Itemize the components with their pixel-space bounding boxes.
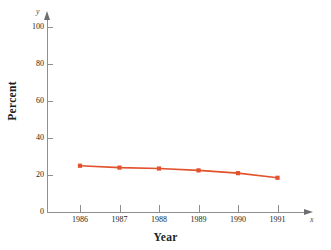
data-line-percent (80, 166, 278, 178)
y-axis-title: Percent (6, 66, 18, 136)
data-point-marker (196, 168, 200, 172)
series-plot-area (0, 0, 331, 250)
data-point-marker (236, 171, 240, 175)
data-point-marker (275, 176, 279, 180)
data-point-marker (78, 164, 82, 168)
data-point-marker (117, 166, 121, 170)
data-point-marker (157, 166, 161, 170)
x-axis-title: Year (0, 231, 331, 243)
data-markers-percent (78, 164, 280, 180)
chart-container: y x 020406080100 19861987198819891990199… (0, 0, 331, 250)
